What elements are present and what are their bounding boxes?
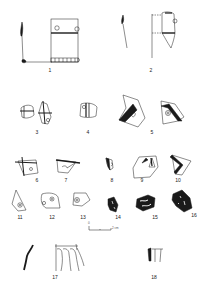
figure-label-9: 9 (141, 178, 144, 183)
figure-label-1: 1 (49, 68, 52, 73)
sherd-10 (170, 155, 191, 175)
sherd-17 (24, 244, 84, 271)
sherd-18 (148, 248, 163, 262)
figure-label-4: 4 (87, 130, 90, 135)
figure-label-12: 12 (49, 215, 55, 220)
figure-label-11: 11 (17, 215, 22, 220)
sherd-6 (15, 157, 38, 176)
figure-label-8: 8 (111, 178, 114, 183)
sherd-15 (136, 195, 155, 211)
figure-label-15: 15 (152, 215, 158, 220)
figure-label-7: 7 (65, 178, 68, 183)
scale-bar (89, 226, 111, 230)
figure-label-17: 17 (52, 275, 58, 280)
figure-label-3: 3 (36, 130, 39, 135)
figure-label-13: 13 (80, 215, 86, 220)
sherd-3 (20, 101, 52, 124)
sherd-7 (56, 160, 80, 173)
figure-label-6: 6 (36, 178, 39, 183)
figure-label-16: 16 (191, 213, 197, 218)
sherd-8 (106, 158, 113, 170)
figure-label-14: 14 (115, 215, 121, 220)
scale-end-label: 2 cm (112, 227, 119, 230)
sherd-11 (12, 190, 26, 211)
scale-start-label: 0 (88, 222, 90, 225)
figure-label-5: 5 (151, 130, 154, 135)
sherd-2 (122, 12, 177, 58)
figure-label-18: 18 (151, 275, 157, 280)
sherd-13 (73, 193, 90, 206)
sherd-16 (172, 190, 192, 212)
sherd-4 (80, 103, 97, 118)
figure-label-2: 2 (150, 68, 153, 73)
sherd-1 (21, 19, 80, 63)
sherd-14 (108, 197, 118, 212)
sherd-9 (133, 156, 158, 178)
figure-label-10: 10 (175, 178, 181, 183)
sherd-plate (0, 0, 207, 290)
sherd-12 (41, 193, 60, 208)
sherd-5 (119, 95, 184, 127)
